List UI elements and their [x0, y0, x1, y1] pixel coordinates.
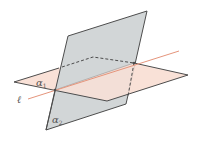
- intersection-point-left: [54, 89, 57, 92]
- label-line-l: ℓ: [17, 94, 21, 105]
- planes-diagram: α1 α2 ℓ: [0, 0, 197, 143]
- intersection-point-right: [133, 62, 136, 65]
